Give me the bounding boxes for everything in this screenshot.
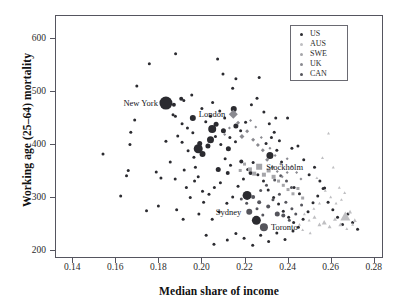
data-point bbox=[313, 166, 316, 169]
data-point bbox=[197, 141, 202, 146]
data-point bbox=[211, 101, 214, 104]
data-point bbox=[278, 193, 281, 196]
data-point bbox=[266, 152, 273, 159]
data-point bbox=[205, 144, 210, 149]
data-point bbox=[207, 193, 210, 196]
data-point bbox=[205, 234, 208, 237]
y-tick-label: 500 bbox=[20, 86, 46, 96]
annotation-new-york: New York bbox=[0, 98, 158, 108]
data-point bbox=[356, 228, 359, 231]
data-point bbox=[259, 234, 262, 237]
data-point bbox=[353, 218, 357, 222]
data-point bbox=[273, 131, 276, 134]
data-point bbox=[243, 163, 246, 166]
data-point bbox=[275, 149, 278, 152]
legend-item-can[interactable]: CAN bbox=[291, 69, 347, 79]
data-point bbox=[237, 185, 240, 188]
data-point bbox=[246, 209, 252, 215]
data-point bbox=[275, 211, 280, 216]
data-point bbox=[278, 139, 281, 142]
data-point bbox=[309, 232, 312, 235]
legend-marker-icon bbox=[300, 63, 303, 66]
x-tick-label: 0.20 bbox=[181, 262, 221, 272]
data-point bbox=[286, 116, 289, 119]
data-point bbox=[266, 205, 270, 209]
x-tick-label: 0.28 bbox=[354, 262, 394, 272]
y-tick-label: 300 bbox=[20, 192, 46, 202]
data-point bbox=[125, 174, 128, 177]
legend-item-aus[interactable]: AUS bbox=[291, 39, 347, 49]
data-point bbox=[256, 207, 259, 210]
data-point bbox=[243, 191, 252, 200]
data-point bbox=[287, 216, 290, 219]
data-point bbox=[312, 207, 315, 210]
data-point bbox=[225, 202, 228, 205]
x-tick-label: 0.18 bbox=[138, 262, 178, 272]
legend-item-us[interactable]: US bbox=[291, 29, 347, 39]
legend-item-swe[interactable]: SWE bbox=[291, 49, 347, 59]
data-point bbox=[252, 216, 261, 225]
data-point bbox=[267, 240, 270, 243]
data-point bbox=[197, 175, 200, 178]
annotation-sydney: Sydney bbox=[0, 207, 241, 217]
data-point bbox=[261, 148, 265, 152]
data-point bbox=[231, 87, 234, 90]
legend-label: AUS bbox=[310, 39, 326, 49]
legend-label: CAN bbox=[310, 69, 327, 79]
data-point bbox=[159, 176, 162, 179]
data-point bbox=[315, 176, 318, 179]
data-point bbox=[348, 210, 352, 214]
data-point bbox=[239, 159, 243, 163]
data-point bbox=[185, 186, 188, 189]
data-point bbox=[343, 191, 346, 194]
data-point bbox=[257, 200, 261, 204]
legend-marker-icon bbox=[300, 33, 303, 36]
data-point bbox=[258, 76, 261, 79]
data-point bbox=[148, 62, 151, 65]
legend-label: US bbox=[310, 29, 320, 39]
data-point bbox=[262, 111, 265, 114]
data-point bbox=[290, 186, 293, 189]
data-point bbox=[336, 216, 339, 219]
data-point bbox=[245, 202, 248, 205]
data-point bbox=[290, 207, 293, 210]
x-tick-label: 0.14 bbox=[52, 262, 92, 272]
data-point bbox=[240, 198, 243, 201]
data-point bbox=[308, 173, 311, 176]
data-point bbox=[296, 145, 299, 148]
data-point bbox=[265, 184, 268, 187]
data-point bbox=[254, 125, 257, 128]
data-point bbox=[252, 172, 256, 176]
data-point bbox=[299, 177, 302, 180]
data-point bbox=[172, 103, 176, 107]
data-point bbox=[223, 133, 226, 136]
data-point bbox=[189, 196, 192, 199]
data-point bbox=[274, 116, 277, 119]
data-point bbox=[182, 99, 185, 102]
legend[interactable]: USAUSSWEUKCAN bbox=[290, 25, 348, 81]
data-point bbox=[119, 194, 122, 197]
data-point bbox=[219, 181, 222, 184]
data-point bbox=[262, 180, 265, 183]
data-point bbox=[248, 167, 252, 171]
data-point bbox=[287, 188, 290, 191]
data-point bbox=[268, 147, 271, 150]
data-point bbox=[303, 212, 306, 215]
data-point bbox=[204, 120, 207, 123]
y-tick-label: 600 bbox=[20, 33, 46, 43]
data-point bbox=[300, 203, 303, 206]
data-point bbox=[193, 180, 196, 183]
data-point bbox=[322, 220, 327, 225]
data-point bbox=[127, 169, 130, 172]
data-point bbox=[277, 202, 280, 205]
data-point bbox=[128, 143, 131, 146]
x-tick-label: 0.22 bbox=[225, 262, 265, 272]
data-point bbox=[181, 141, 184, 144]
data-point bbox=[298, 223, 301, 226]
data-point bbox=[214, 122, 219, 127]
annotation-stockholm: Stockholm bbox=[266, 162, 303, 172]
data-point bbox=[321, 156, 324, 159]
data-point bbox=[164, 140, 167, 143]
data-point bbox=[290, 147, 293, 150]
legend-item-uk[interactable]: UK bbox=[291, 59, 347, 69]
